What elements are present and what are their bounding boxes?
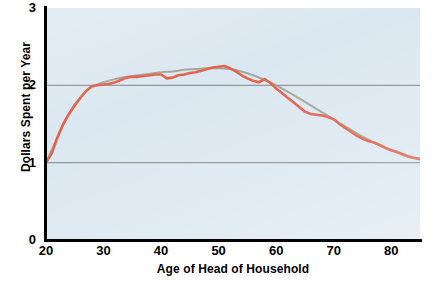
plot-svg: [46, 8, 420, 240]
x-axis-line: [44, 239, 422, 242]
chart-container: 0123 20304050607080 Age of Head of House…: [0, 0, 434, 284]
y-axis-line: [44, 6, 47, 242]
series-line-smooth-trend: [46, 68, 420, 162]
x-tick-label: 20: [26, 244, 66, 257]
x-tick-label: 40: [141, 244, 181, 257]
x-tick-label: 70: [314, 244, 354, 257]
series-group: [46, 66, 420, 163]
series-line-observed: [46, 66, 420, 163]
gridlines-group: [46, 85, 420, 162]
plot-area: [46, 8, 420, 240]
x-tick-label: 80: [371, 244, 411, 257]
x-tick-label: 60: [256, 244, 296, 257]
x-tick-label: 30: [84, 244, 124, 257]
y-axis-title: Dollars Spent per Year: [19, 0, 33, 217]
x-axis-title: Age of Head of Household: [46, 262, 420, 276]
x-tick-label: 50: [199, 244, 239, 257]
